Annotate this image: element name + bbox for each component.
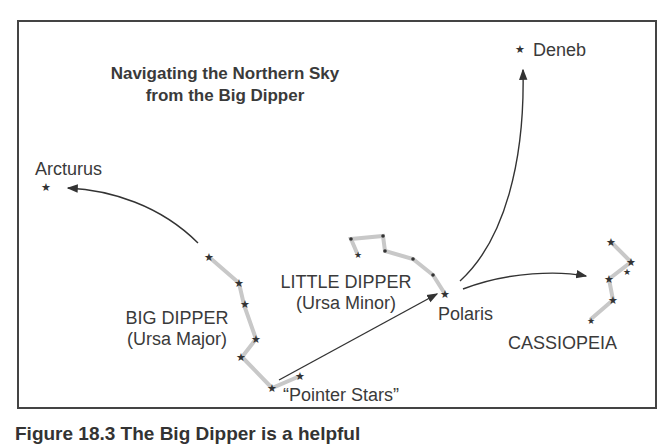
star-icon-deneb: ★ (515, 43, 525, 56)
star-icon: ★ (295, 370, 305, 383)
label-pointer-stars: “Pointer Stars” (283, 385, 399, 406)
big-dipper-name: BIG DIPPER (117, 308, 237, 329)
star-icon: ★ (267, 382, 277, 395)
label-polaris: Polaris (438, 304, 493, 325)
star-icon: ★ (354, 250, 362, 260)
star-icon: ★ (204, 251, 214, 264)
star-icon: ★ (251, 333, 261, 346)
little-dipper-latin: (Ursa Minor) (271, 293, 421, 314)
label-deneb: Deneb (533, 40, 586, 61)
label-big-dipper: BIG DIPPER (Ursa Major) (117, 308, 237, 350)
title-line-1: Navigating the Northern Sky (110, 63, 340, 85)
star-icon: ★ (240, 298, 250, 311)
star-icon: ★ (236, 351, 246, 364)
diagram-title: Navigating the Northern Sky from the Big… (110, 63, 340, 107)
star-icon-polaris: ★ (440, 288, 450, 301)
big-dipper-latin: (Ursa Major) (117, 329, 237, 350)
figure-caption: Figure 18.3 The Big Dipper is a helpful (15, 423, 360, 445)
star-icon: ★ (604, 273, 614, 286)
star-icon: ★ (234, 277, 244, 290)
star-icon-arcturus: ★ (41, 181, 51, 194)
label-little-dipper: LITTLE DIPPER (Ursa Minor) (271, 272, 421, 314)
little-dipper-name: LITTLE DIPPER (271, 272, 421, 293)
title-line-2: from the Big Dipper (110, 85, 340, 107)
label-cassiopeia: CASSIOPEIA (508, 333, 617, 354)
star-icon: ★ (623, 267, 631, 277)
star-icon: ★ (608, 294, 618, 307)
label-arcturus: Arcturus (35, 159, 102, 180)
star-icon: ★ (587, 316, 595, 326)
star-icon: ★ (606, 236, 616, 249)
